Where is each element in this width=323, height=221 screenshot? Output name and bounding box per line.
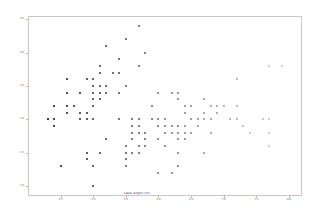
scatter-point	[216, 105, 218, 107]
y-tick-mark	[26, 19, 28, 20]
scatter-point	[125, 152, 127, 154]
scatter-point	[171, 172, 173, 174]
scatter-point	[268, 118, 270, 120]
scatter-point	[66, 92, 68, 94]
x-tick-label: 6.0	[156, 199, 160, 202]
scatter-point	[184, 112, 186, 114]
scatter-point	[177, 165, 179, 167]
scatter-point	[66, 112, 68, 114]
scatter-point	[177, 152, 179, 154]
scatter-point	[216, 112, 218, 114]
scatter-point	[268, 65, 270, 67]
scatter-point	[79, 118, 81, 120]
scatter-point	[138, 132, 140, 134]
scatter-point	[125, 165, 127, 167]
scatter-point	[177, 92, 179, 94]
scatter-point	[164, 118, 166, 120]
scatter-point	[157, 92, 159, 94]
scatter-point	[236, 105, 238, 107]
x-tick-label: 5.0	[91, 199, 95, 202]
scatter-point	[138, 118, 140, 120]
scatter-point	[105, 92, 107, 94]
scatter-point	[144, 145, 146, 147]
scatter-point	[236, 78, 238, 80]
scatter-point	[53, 118, 55, 120]
scatter-plot-axes: 4.55.05.56.06.57.07.58.02.02.53.03.54.04…	[28, 16, 302, 196]
scatter-point	[144, 52, 146, 54]
scatter-point	[112, 72, 114, 74]
scatter-point	[138, 152, 140, 154]
scatter-point	[125, 145, 127, 147]
scatter-point	[223, 105, 225, 107]
scatter-point	[86, 112, 88, 114]
x-axis-label: sepal length (cm)	[124, 192, 150, 195]
y-tick-mark	[26, 86, 28, 87]
y-tick-label: 2.5	[20, 151, 24, 154]
scatter-point	[144, 138, 146, 140]
scatter-point	[138, 125, 140, 127]
x-tick-label: 5.5	[124, 199, 128, 202]
scatter-point	[86, 78, 88, 80]
x-tick-label: 7.5	[254, 199, 258, 202]
scatter-point	[53, 125, 55, 127]
scatter-point	[229, 118, 231, 120]
scatter-point	[118, 72, 120, 74]
scatter-point	[157, 125, 159, 127]
scatter-point	[99, 72, 101, 74]
scatter-point	[86, 152, 88, 154]
x-tick-label: 4.5	[59, 199, 63, 202]
scatter-point	[131, 132, 133, 134]
scatter-point	[99, 92, 101, 94]
y-tick-label: 3.5	[20, 85, 24, 88]
scatter-point	[131, 138, 133, 140]
scatter-point	[66, 78, 68, 80]
scatter-point	[138, 65, 140, 67]
scatter-point	[268, 132, 270, 134]
scatter-point	[99, 85, 101, 87]
scatter-point	[203, 98, 205, 100]
scatter-point	[99, 152, 101, 154]
scatter-point	[151, 118, 153, 120]
scatter-point	[79, 112, 81, 114]
y-tick-label: 2.0	[20, 185, 24, 188]
x-tick-label: 7.0	[222, 199, 226, 202]
scatter-point	[184, 138, 186, 140]
scatter-point	[144, 132, 146, 134]
scatter-point	[262, 118, 264, 120]
scatter-point	[105, 138, 107, 140]
scatter-point	[164, 125, 166, 127]
scatter-point	[118, 92, 120, 94]
scatter-point	[86, 118, 88, 120]
scatter-point	[86, 158, 88, 160]
scatter-point	[177, 138, 179, 140]
scatter-point	[164, 145, 166, 147]
scatter-point	[125, 38, 127, 40]
scatter-point	[66, 105, 68, 107]
scatter-point	[118, 58, 120, 60]
scatter-point	[164, 132, 166, 134]
y-tick-mark	[26, 153, 28, 154]
scatter-point	[118, 118, 120, 120]
scatter-point	[177, 98, 179, 100]
scatter-point	[249, 132, 251, 134]
x-tick-label: 6.5	[189, 199, 193, 202]
y-tick-label: 4.5	[20, 18, 24, 21]
scatter-point	[197, 125, 199, 127]
scatter-point	[92, 118, 94, 120]
scatter-point	[125, 85, 127, 87]
scatter-points-layer	[28, 16, 302, 196]
scatter-point	[210, 132, 212, 134]
scatter-point	[125, 158, 127, 160]
scatter-point	[73, 105, 75, 107]
y-tick-label: 4.0	[20, 51, 24, 54]
matplotlib-figure: 4.55.05.56.06.57.07.58.02.02.53.03.54.04…	[0, 0, 323, 221]
scatter-point	[210, 118, 212, 120]
scatter-point	[99, 65, 101, 67]
scatter-point	[203, 112, 205, 114]
scatter-point	[157, 118, 159, 120]
scatter-point	[171, 92, 173, 94]
y-tick-mark	[26, 186, 28, 187]
scatter-point	[190, 118, 192, 120]
x-tick-label: 8.0	[287, 199, 291, 202]
scatter-point	[281, 65, 283, 67]
